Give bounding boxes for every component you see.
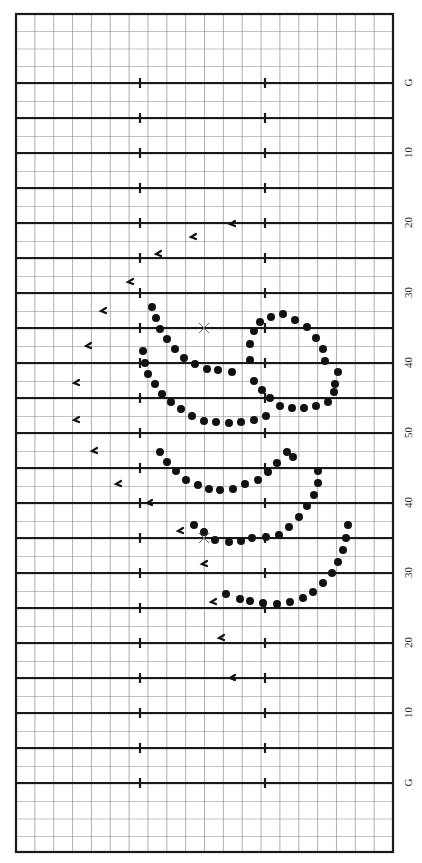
performer-dot [344,521,352,529]
performer-dot [158,390,166,398]
performer-dot [276,402,284,410]
performer-glyph-icon [191,234,196,239]
performer-dot [225,538,233,546]
performer-dot [250,327,258,335]
performer-dot [328,569,336,577]
performer-dot [303,323,311,331]
performer-dot [309,588,317,596]
performer-dot [339,546,347,554]
performer-dot [285,523,293,531]
performer-dot [291,316,299,324]
performer-dot [203,365,211,373]
performer-dot [191,360,199,368]
performer-dot [200,417,208,425]
performer-glyph-icon [211,599,216,604]
performer-dot [246,356,254,364]
performer-dot [264,468,272,476]
performer-dot [324,398,332,406]
performer-dot [180,354,188,362]
performer-glyph-icon [178,528,183,533]
performer-dot [254,476,262,484]
performer-dot [319,345,327,353]
performer-dot [241,480,249,488]
yard-line-label: 50 [403,422,414,444]
performer-dot [331,380,339,388]
performer-dot [289,453,297,461]
performer-glyph-icon [202,561,207,566]
performer-dot [151,380,159,388]
performer-glyph-icon [92,448,97,453]
performer-dot [212,418,220,426]
performer-dot [259,599,267,607]
performer-dot [321,357,329,365]
performer-dot [246,340,254,348]
performer-dot [156,448,164,456]
performer-dot [334,368,342,376]
performer-dot [248,534,256,542]
performer-dot [273,459,281,467]
performer-glyph-icon [74,380,79,385]
performer-dot [188,412,196,420]
performer-dot [163,335,171,343]
performer-dot [222,590,230,598]
yard-line-label: G [403,72,414,94]
performer-glyph-icon [74,417,79,422]
performer-dot [334,558,342,566]
yard-line-label: 30 [403,282,414,304]
performer-dot [314,479,322,487]
performer-dot [156,325,164,333]
performer-dot [250,416,258,424]
performer-dot [256,318,264,326]
yard-line-label: 40 [403,492,414,514]
performer-dot [319,579,327,587]
performer-dot [288,404,296,412]
performer-dot [303,502,311,510]
performer-dot [190,521,198,529]
performer-dot [167,398,175,406]
yard-line-label: 10 [403,142,414,164]
performer-dot [236,595,244,603]
performer-glyph-icon [156,251,161,256]
performer-dot [144,370,152,378]
performer-dot [139,347,147,355]
performer-dot [163,458,171,466]
performer-dot [211,536,219,544]
performer-dot [141,359,149,367]
performer-dot [286,598,294,606]
yard-line-label: 20 [403,212,414,234]
performer-dot [237,537,245,545]
drill-chart-field [0,0,422,863]
performer-dot [342,534,350,542]
performer-dot [229,485,237,493]
yard-line-label: 10 [403,702,414,724]
performer-dot [295,513,303,521]
performer-dot [273,600,281,608]
performer-dot [267,313,275,321]
performer-dot [246,597,254,605]
performer-glyph-icon [86,343,91,348]
yard-line-label: G [403,772,414,794]
performer-dot [266,394,274,402]
performer-dot [172,467,180,475]
performer-dot [310,491,318,499]
yard-line-label: 20 [403,632,414,654]
performer-dot [214,366,222,374]
performer-glyph-icon [101,308,106,313]
performer-dot [216,486,224,494]
performer-dot [250,377,258,385]
performer-dot [279,310,287,318]
performer-dot [312,334,320,342]
performer-dot [299,594,307,602]
performer-dot [225,419,233,427]
performer-dot [182,476,190,484]
performer-dot [314,467,322,475]
performer-dot [262,412,270,420]
performer-dot [312,402,320,410]
performer-dot [177,405,185,413]
performer-dot [275,531,283,539]
performer-dot [148,303,156,311]
performer-dot [262,533,270,541]
performer-glyph-icon [116,481,121,486]
performer-dot [300,404,308,412]
performer-dot [228,368,236,376]
